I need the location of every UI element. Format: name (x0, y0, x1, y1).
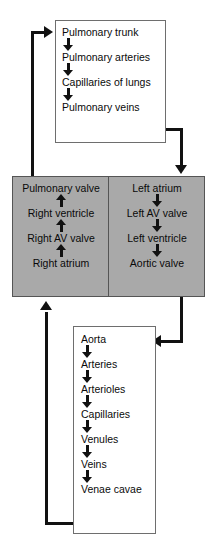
pulmonary-node-pulmonary-trunk: Pulmonary trunk (62, 26, 138, 38)
arrow-down-icon (81, 445, 93, 458)
connector-pulmonaryvalve-vertical (31, 34, 34, 176)
systemic-node-venules: Venules (81, 433, 118, 445)
systemic-node-arterioles: Arterioles (81, 383, 125, 395)
arrow-down-icon (81, 470, 93, 483)
arrow-down-icon (151, 219, 163, 232)
connector-pulmonaryvalve-arrowhead (44, 26, 53, 38)
arrow-down-icon (151, 194, 163, 207)
connector-venaecavae-arrowhead (40, 301, 52, 310)
arrow-down-icon (81, 395, 93, 408)
right-heart-node-right-atrium: Right atrium (33, 257, 90, 269)
arrow-down-icon (81, 370, 93, 383)
right-heart-node-right-av-valve: Right AV valve (27, 232, 95, 244)
right-heart-list: Pulmonary valve Right ventricle Right AV… (15, 182, 107, 269)
arrow-down-icon (151, 244, 163, 257)
arrow-down-icon (62, 63, 74, 76)
systemic-node-aorta: Aorta (81, 333, 106, 345)
left-heart-node-left-ventricle: Left ventricle (127, 232, 187, 244)
arrow-down-icon (62, 38, 74, 51)
circulatory-flow-diagram: Pulmonary trunk Pulmonary arteries Capil… (0, 0, 212, 554)
arrow-up-icon (55, 219, 67, 232)
arrow-down-icon (62, 88, 74, 101)
arrow-down-icon (81, 345, 93, 358)
systemic-node-veins: Veins (81, 458, 107, 470)
connector-pulmonaryvalve-horizontal (31, 31, 45, 34)
pulmonary-node-pulmonary-veins: Pulmonary veins (62, 101, 140, 113)
pulmonary-circulation-list: Pulmonary trunk Pulmonary arteries Capil… (62, 26, 162, 113)
systemic-circulation-list: Aorta Arteries Arterioles Capillaries Ve… (81, 333, 155, 495)
connector-aorticvalve-horizontal (160, 340, 183, 343)
pulmonary-node-capillaries-of-lungs: Capillaries of lungs (62, 76, 151, 88)
left-heart-node-left-atrium: Left atrium (132, 182, 182, 194)
systemic-node-venae-cavae: Venae cavae (81, 483, 142, 495)
right-heart-node-pulmonary-valve: Pulmonary valve (22, 182, 100, 194)
pulmonary-node-pulmonary-arteries: Pulmonary arteries (62, 51, 150, 63)
connector-pulmonaryveins-arrowhead (175, 165, 187, 174)
connector-venaecavae-vertical (45, 312, 48, 524)
systemic-node-arteries: Arteries (81, 358, 117, 370)
arrow-down-icon (81, 420, 93, 433)
left-heart-node-aortic-valve: Aortic valve (130, 257, 184, 269)
arrow-up-icon (55, 194, 67, 207)
connector-pulmonaryveins-vertical (180, 128, 183, 166)
left-heart-list: Left atrium Left AV valve Left ventricle… (112, 182, 202, 269)
arrow-up-icon (55, 244, 67, 257)
heart-box-divider (108, 177, 109, 296)
left-heart-node-left-av-valve: Left AV valve (127, 207, 188, 219)
right-heart-node-right-ventricle: Right ventricle (28, 207, 95, 219)
connector-aorticvalve-vertical (180, 296, 183, 343)
systemic-node-capillaries: Capillaries (81, 408, 130, 420)
